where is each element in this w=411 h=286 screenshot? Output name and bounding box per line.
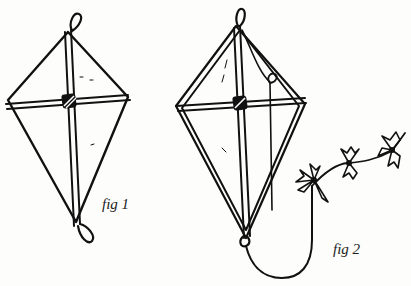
bottom-loop: [78, 224, 93, 242]
figure-label-fig2: fig 2: [333, 241, 360, 258]
kite-fig2: [176, 9, 312, 278]
kite-frame: [8, 32, 128, 222]
center-knot: [61, 93, 77, 109]
tail-string: [246, 186, 312, 278]
figure-label-fig1: fig 1: [102, 196, 129, 213]
center-knot: [232, 95, 248, 111]
top-loop: [236, 9, 244, 26]
top-loop: [71, 14, 82, 31]
illustration-canvas: fig 1 fig 2: [0, 0, 411, 286]
